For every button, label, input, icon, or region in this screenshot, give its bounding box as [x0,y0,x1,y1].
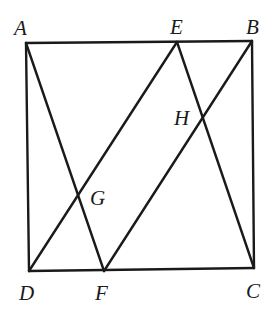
segment-fb [104,41,252,271]
label-c: C [246,279,261,303]
square-abcd [26,41,254,271]
label-d: D [18,281,34,305]
label-h: H [173,106,191,130]
segment-ab [26,41,252,43]
segment-ec [177,42,254,268]
label-e: E [169,15,183,39]
segment-da [26,43,29,271]
segment-af [26,43,104,271]
inner-segments [26,41,254,271]
label-g: G [90,186,105,210]
segment-de [29,42,177,271]
segment-cd [29,268,254,271]
label-a: A [12,16,27,40]
label-b: B [246,15,259,39]
point-labels: A E B D F C G H [12,15,261,305]
geometry-diagram: A E B D F C G H [0,0,273,309]
label-f: F [94,281,108,305]
segment-bc [252,41,254,268]
